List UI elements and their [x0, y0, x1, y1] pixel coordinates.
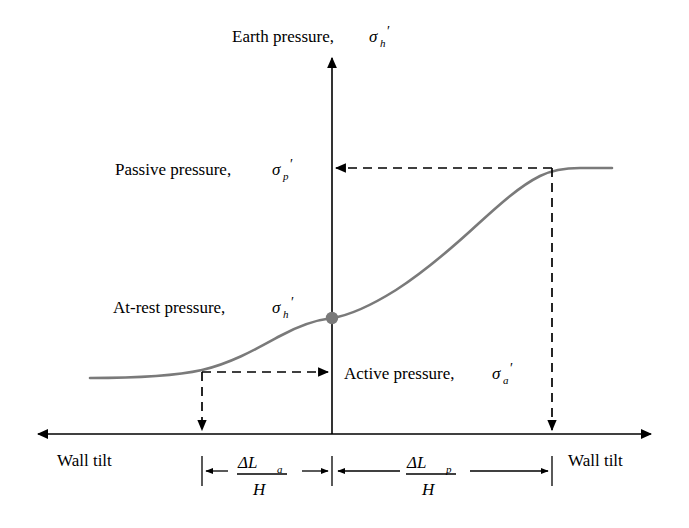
y-axis-title: Earth pressure, σ h ′	[232, 24, 390, 49]
at-rest-pressure-subscript: h	[283, 308, 289, 320]
earth-pressure-diagram: Earth pressure, σ h ′ Passive pressure, …	[0, 0, 689, 528]
at-rest-pressure-sigma: σ	[272, 298, 281, 317]
passive-pressure-prime: ′	[290, 157, 293, 172]
earth-pressure-curve	[90, 168, 612, 378]
active-pressure-prime: ′	[510, 361, 513, 376]
active-pressure-sigma: σ	[492, 364, 501, 383]
passive-strain-numerator: ΔL	[406, 453, 426, 472]
at-rest-pressure-text: At-rest pressure,	[113, 298, 225, 317]
at-rest-pressure-label: At-rest pressure, σ h ′	[113, 295, 294, 320]
active-pressure-subscript: a	[503, 374, 509, 386]
active-strain-denominator: H	[252, 480, 267, 499]
y-axis-title-sigma: σ	[369, 27, 378, 46]
active-pressure-label: Active pressure, σ a ′	[344, 361, 513, 386]
at-rest-pressure-prime: ′	[291, 295, 294, 310]
y-axis-title-prime: ′	[387, 24, 390, 39]
passive-strain-numerator-subscript: p	[445, 463, 452, 475]
y-axis-title-text: Earth pressure,	[232, 27, 334, 46]
at-rest-marker-dot	[326, 312, 338, 324]
active-pressure-text: Active pressure,	[344, 364, 454, 383]
active-strain-dimension: ΔL a H	[202, 453, 332, 499]
y-axis-title-subscript: h	[380, 37, 386, 49]
passive-pressure-text: Passive pressure,	[115, 160, 231, 179]
passive-strain-dimension: ΔL p H	[338, 453, 552, 499]
passive-pressure-subscript: p	[282, 170, 289, 182]
passive-pressure-sigma: σ	[272, 160, 281, 179]
wall-tilt-right-label: Wall tilt	[568, 451, 623, 470]
wall-tilt-left-label: Wall tilt	[57, 451, 112, 470]
figure-canvas: Earth pressure, σ h ′ Passive pressure, …	[0, 0, 689, 528]
active-strain-numerator: ΔL	[237, 453, 257, 472]
passive-pressure-label: Passive pressure, σ p ′	[115, 157, 293, 182]
passive-strain-denominator: H	[421, 480, 436, 499]
active-strain-numerator-subscript: a	[277, 463, 283, 475]
